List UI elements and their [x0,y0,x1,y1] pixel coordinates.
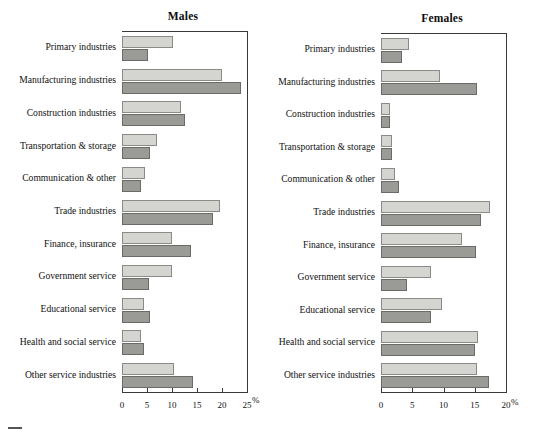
bar-males-light [122,363,174,375]
category-label: Primary industries [45,42,116,52]
bar-females-light [381,298,442,310]
category-labels-males: Primary industriesManufacturing industri… [0,31,122,391]
bar-males-light [122,232,172,244]
males-axis-tick [122,388,123,393]
females-axis-tick [506,388,507,393]
males-axis-tick [197,388,198,393]
category-label: Other service industries [284,370,375,380]
category-label: Communication & other [281,174,375,184]
bar-males-light [122,298,144,310]
category-label: Transportation & storage [20,141,116,151]
bar-males-dark [122,82,241,94]
category-label: Manufacturing industries [19,75,116,85]
bar-females-light [381,233,462,245]
bar-females-dark [381,214,481,226]
bar-males-dark [122,311,150,323]
males-axis-tick-label: 0 [112,400,132,410]
category-label: Health and social service [20,337,116,347]
bar-females-dark [381,116,390,128]
category-label: Educational service [41,304,116,314]
category-label: Construction industries [27,108,116,118]
footer-rule [8,427,22,429]
figure-canvas: Males 0510152025 Primary industriesManuf… [0,0,547,433]
bar-females-dark [381,148,392,160]
males-axis-tick-label: 10 [162,400,182,410]
males-axis-tick-label: 20 [212,400,232,410]
bar-females-dark [381,181,399,193]
bar-males-dark [122,147,150,159]
males-axis-tick [247,388,248,393]
bar-males-light [122,330,141,342]
category-label: Government service [297,272,375,282]
males-axis-tick-label: 15 [187,400,207,410]
chart-panel-males: Males 0510152025 Primary industriesManuf… [0,0,290,433]
bar-males-dark [122,376,193,388]
bar-males-dark [122,278,149,290]
bar-females-light [381,168,395,180]
males-axis-tick [172,388,173,393]
females-axis-tick-label: 5 [402,400,422,410]
bar-males-light [122,69,222,81]
females-axis-tick [475,388,476,393]
bar-males-dark [122,114,185,126]
category-label: Other service industries [25,370,116,380]
chart-title-males: Males [122,10,244,22]
females-axis-tick [444,388,445,393]
chart-panel-females: Females 05101520 Primary industriesManuf… [275,0,547,433]
category-labels-females: Primary industriesManufacturing industri… [275,33,381,391]
bar-males-light [122,200,220,212]
bar-females-light [381,201,490,213]
bar-females-light [381,38,409,50]
bar-females-dark [381,279,407,291]
males-axis-tick-label: 5 [137,400,157,410]
bar-females-light [381,70,440,82]
category-label: Finance, insurance [44,239,116,249]
bar-males-dark [122,343,144,355]
category-label: Health and social service [279,337,375,347]
category-label: Manufacturing industries [278,77,375,87]
bar-females-light [381,266,431,278]
axis-unit-males: % [252,395,260,405]
plot-area-males: 0510152025 [122,31,248,393]
bar-females-dark [381,311,431,323]
bar-males-dark [122,49,148,61]
plot-area-females: 05101520 [381,33,507,393]
category-label: Communication & other [22,173,116,183]
category-label: Finance, insurance [303,240,375,250]
category-label: Primary industries [304,44,375,54]
category-label: Trade industries [54,206,116,216]
bar-males-light [122,167,145,179]
females-axis-tick-label: 15 [465,400,485,410]
bar-females-dark [381,51,402,63]
category-label: Construction industries [286,109,375,119]
bar-females-light [381,363,477,375]
bar-males-dark [122,213,213,225]
males-axis-tick [147,388,148,393]
category-label: Educational service [300,305,375,315]
females-axis-tick-label: 10 [434,400,454,410]
females-axis-tick [381,388,382,393]
bar-males-light [122,101,181,113]
bar-males-light [122,134,157,146]
bar-females-light [381,331,478,343]
bar-females-light [381,103,390,115]
axis-unit-females: % [511,397,519,407]
bar-females-dark [381,246,476,258]
chart-title-females: Females [381,12,503,24]
bar-males-dark [122,245,191,257]
bar-females-dark [381,376,489,388]
category-label: Government service [38,271,116,281]
females-axis-tick [412,388,413,393]
bar-males-light [122,265,172,277]
males-axis-tick [222,388,223,393]
females-axis-tick-label: 0 [371,400,391,410]
bar-males-dark [122,180,141,192]
bar-females-dark [381,344,475,356]
bar-females-dark [381,83,477,95]
category-label: Trade industries [313,207,375,217]
bar-females-light [381,135,392,147]
bar-males-light [122,36,173,48]
category-label: Transportation & storage [279,142,375,152]
